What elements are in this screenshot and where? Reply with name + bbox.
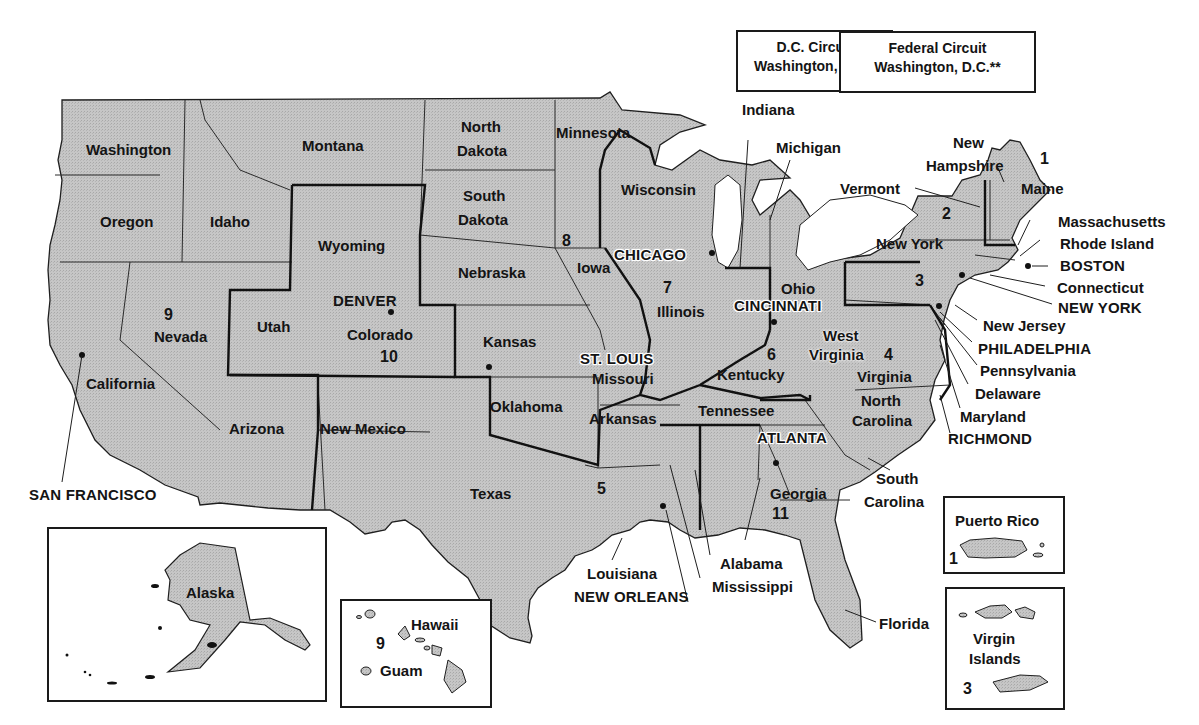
state-label-rhode-island: Rhode Island bbox=[1060, 235, 1154, 252]
state-label-delaware: Delaware bbox=[975, 385, 1041, 402]
state-label-california: California bbox=[86, 375, 155, 392]
state-label-new-york: New York bbox=[876, 235, 943, 252]
state-label-oklahoma: Oklahoma bbox=[490, 398, 563, 415]
circuit-number-1: 1 bbox=[1040, 150, 1049, 168]
state-label-maine: Maine bbox=[1021, 180, 1064, 197]
state-label-colorado: Colorado bbox=[347, 326, 413, 343]
state-label-north-dakota-1: North bbox=[461, 118, 501, 135]
state-label-new-hampshire-2: Hampshire bbox=[926, 157, 1004, 174]
puerto-rico-shape bbox=[960, 538, 1027, 558]
city-label-new-orleans: NEW ORLEANS bbox=[574, 588, 689, 605]
state-label-puerto-rico: Puerto Rico bbox=[955, 512, 1039, 529]
state-label-illinois: Illinois bbox=[657, 303, 705, 320]
state-label-north-carolina-1: North bbox=[861, 392, 901, 409]
state-label-mississippi: Mississippi bbox=[712, 578, 793, 595]
state-label-hawaii: Hawaii bbox=[411, 616, 459, 633]
state-label-indiana: Indiana bbox=[742, 101, 795, 118]
state-label-ohio: Ohio bbox=[781, 280, 815, 297]
state-label-iowa: Iowa bbox=[577, 259, 610, 276]
state-label-new-mexico: New Mexico bbox=[320, 420, 406, 437]
circuit-number-4: 4 bbox=[884, 346, 893, 364]
state-label-maryland: Maryland bbox=[960, 408, 1026, 425]
city-label-cincinnati: CINCINNATI bbox=[734, 297, 822, 314]
state-label-virgin-islands-2: Islands bbox=[969, 650, 1021, 667]
city-label-new-york: NEW YORK bbox=[1058, 299, 1142, 316]
state-label-connecticut: Connecticut bbox=[1057, 279, 1144, 296]
circuit-number-9: 9 bbox=[164, 306, 173, 324]
state-label-south-dakota-2: Dakota bbox=[458, 211, 508, 228]
state-label-idaho: Idaho bbox=[210, 213, 250, 230]
state-label-michigan: Michigan bbox=[776, 139, 841, 156]
city-label-chicago: CHICAGO bbox=[614, 246, 686, 263]
state-label-texas: Texas bbox=[470, 485, 511, 502]
circuit-number-3-virgin-islands: 3 bbox=[963, 680, 972, 698]
state-label-new-hampshire-1: New bbox=[953, 134, 984, 151]
state-label-vermont: Vermont bbox=[840, 180, 900, 197]
state-label-west-virginia-1: West bbox=[823, 327, 859, 344]
circuit-number-6: 6 bbox=[767, 346, 776, 364]
city-label-san-francisco: SAN FRANCISCO bbox=[29, 486, 157, 503]
circuit-number-7: 7 bbox=[663, 279, 672, 297]
state-label-arizona: Arizona bbox=[229, 420, 284, 437]
city-label-st-louis: ST. LOUIS bbox=[580, 350, 653, 367]
state-label-alabama: Alabama bbox=[720, 555, 783, 572]
circuit-number-1-puerto-rico: 1 bbox=[949, 550, 958, 568]
circuit-number-5: 5 bbox=[597, 480, 606, 498]
state-label-tennessee: Tennessee bbox=[698, 402, 774, 419]
state-label-kentucky: Kentucky bbox=[717, 366, 785, 383]
circuit-number-2: 2 bbox=[942, 205, 951, 223]
state-label-missouri: Missouri bbox=[592, 370, 654, 387]
state-label-north-dakota-2: Dakota bbox=[457, 142, 507, 159]
state-label-south-dakota-1: South bbox=[463, 187, 506, 204]
state-label-guam: Guam bbox=[380, 662, 423, 679]
state-label-montana: Montana bbox=[302, 137, 364, 154]
state-label-virgin-islands-1: Virgin bbox=[973, 630, 1015, 647]
state-label-arkansas: Arkansas bbox=[589, 410, 657, 427]
state-label-north-carolina-2: Carolina bbox=[852, 412, 912, 429]
state-label-massachusetts: Massachusetts bbox=[1058, 213, 1166, 230]
circuit-number-8: 8 bbox=[562, 232, 571, 250]
city-label-philadelphia: PHILADELPHIA bbox=[978, 340, 1091, 357]
state-label-nevada: Nevada bbox=[154, 328, 207, 345]
city-label-richmond: RICHMOND bbox=[948, 430, 1032, 447]
state-label-washington: Washington bbox=[86, 141, 171, 158]
puerto-rico-inset-frame bbox=[944, 497, 1064, 573]
federal-circuit-line2: Washington, D.C.** bbox=[839, 58, 1036, 76]
federal-circuit-line1: Federal Circuit bbox=[839, 39, 1036, 57]
state-label-wyoming: Wyoming bbox=[318, 237, 385, 254]
state-label-virginia: Virginia bbox=[857, 368, 912, 385]
state-label-kansas: Kansas bbox=[483, 333, 536, 350]
state-label-south-carolina-2: Carolina bbox=[864, 493, 924, 510]
state-label-minnesota: Minnesota bbox=[556, 124, 630, 141]
state-label-louisiana: Louisiana bbox=[587, 565, 657, 582]
circuit-number-9-hawaii: 9 bbox=[376, 635, 385, 653]
circuit-number-11: 11 bbox=[772, 505, 789, 523]
state-label-utah: Utah bbox=[257, 318, 290, 335]
city-label-boston: BOSTON bbox=[1060, 257, 1125, 274]
state-label-florida: Florida bbox=[879, 615, 929, 632]
city-label-atlanta: ATLANTA bbox=[757, 429, 827, 446]
state-label-wisconsin: Wisconsin bbox=[621, 181, 696, 198]
state-label-pennsylvania: Pennsylvania bbox=[980, 362, 1076, 379]
guam-island bbox=[361, 667, 371, 675]
circuit-number-10: 10 bbox=[380, 348, 398, 366]
city-label-denver: DENVER bbox=[333, 292, 397, 309]
state-label-georgia: Georgia bbox=[770, 485, 827, 502]
state-label-new-jersey: New Jersey bbox=[983, 317, 1066, 334]
state-label-nebraska: Nebraska bbox=[458, 264, 526, 281]
circuit-number-3: 3 bbox=[915, 272, 924, 290]
state-label-alaska: Alaska bbox=[186, 584, 234, 601]
state-label-south-carolina-1: South bbox=[876, 470, 919, 487]
state-label-oregon: Oregon bbox=[100, 213, 153, 230]
state-label-west-virginia-2: Virginia bbox=[809, 346, 864, 363]
